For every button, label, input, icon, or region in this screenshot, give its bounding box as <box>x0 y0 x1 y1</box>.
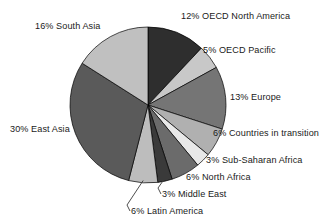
pie-label-north-africa: 6% North Africa <box>186 172 251 182</box>
pie-label-europe: 13% Europe <box>230 92 281 102</box>
pie-label-middle-east: 3% Middle East <box>162 189 226 199</box>
pie-label-countries-in-transition: 6% Countries in transition <box>213 128 319 138</box>
pie-label-south-asia: 16% South Asia <box>35 21 100 31</box>
pie-label-oecd-north-america: 12% OECD North America <box>181 11 290 21</box>
pie-label-east-asia: 30% East Asia <box>10 124 70 134</box>
pie-label-oecd-pacific: 5% OECD Pacific <box>203 45 276 55</box>
chart-page: 12% OECD North America 5% OECD Pacific 1… <box>0 0 336 224</box>
pie-label-sub-saharan-africa: 3% Sub-Saharan Africa <box>206 155 302 165</box>
pie-label-latin-america: 6% Latin America <box>131 206 203 216</box>
